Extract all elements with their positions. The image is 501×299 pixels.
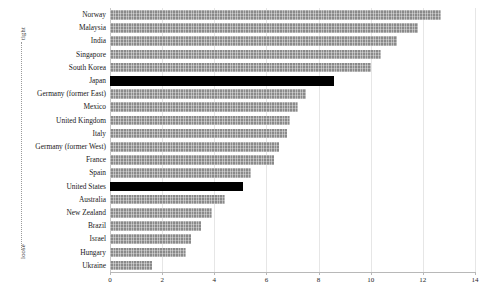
x-tick-label-4: 4 xyxy=(202,276,226,284)
x-tick-label-0: 0 xyxy=(98,276,122,284)
x-tick-label-10: 10 xyxy=(359,276,383,284)
bar-row: Germany (former West) xyxy=(110,140,475,153)
category-label: France xyxy=(86,156,106,163)
category-label: Australia xyxy=(79,196,106,203)
x-tick-label-2: 2 xyxy=(150,276,174,284)
bar xyxy=(110,168,251,178)
category-label: Singapore xyxy=(76,51,106,58)
bar-rows: NorwayMalaysiaIndiaSingaporeSouth KoreaJ… xyxy=(110,8,475,272)
bar xyxy=(110,155,274,165)
bar-row: India xyxy=(110,35,475,48)
bar-row: Mexico xyxy=(110,101,475,114)
category-label: Israel xyxy=(90,236,106,243)
category-label: Italy xyxy=(92,130,106,137)
bar-row: France xyxy=(110,154,475,167)
category-label: Hungary xyxy=(80,249,106,256)
bar xyxy=(110,36,397,46)
x-tick-label-14: 14 xyxy=(463,276,487,284)
bar xyxy=(110,89,306,99)
category-label: India xyxy=(91,38,106,45)
x-tick-8 xyxy=(319,272,320,275)
bar-row: New Zealand xyxy=(110,206,475,219)
bar xyxy=(110,234,191,244)
category-label: United Kingdom xyxy=(56,117,106,124)
bar-row: United Kingdom xyxy=(110,114,475,127)
x-tick-12 xyxy=(423,272,424,275)
bar xyxy=(110,102,298,112)
bar-row: Spain xyxy=(110,167,475,180)
annotation-axis-line xyxy=(21,42,22,250)
tightness-looseness-axis: tight loose xyxy=(14,22,30,270)
annotation-label-tight: tight xyxy=(19,18,26,50)
category-label: Spain xyxy=(89,170,106,177)
category-label: Germany (former West) xyxy=(35,143,106,150)
bar-row: Japan xyxy=(110,74,475,87)
gridline-14 xyxy=(475,8,476,272)
category-label: South Korea xyxy=(69,64,106,71)
x-tick-label-6: 6 xyxy=(254,276,278,284)
bar-row: Italy xyxy=(110,127,475,140)
x-tick-10 xyxy=(371,272,372,275)
category-label: Brazil xyxy=(88,222,106,229)
category-label: New Zealand xyxy=(66,209,106,216)
x-tick-label-8: 8 xyxy=(307,276,331,284)
bar xyxy=(110,208,212,218)
bar-highlighted xyxy=(110,76,334,86)
bar xyxy=(110,10,441,20)
x-tick-2 xyxy=(162,272,163,275)
x-tick-14 xyxy=(475,272,476,275)
bar-row: Singapore xyxy=(110,48,475,61)
bar xyxy=(110,248,186,258)
chart-canvas: tight loose NorwayMalaysiaIndiaSingapore… xyxy=(0,0,501,299)
category-label: Germany (former East) xyxy=(37,90,106,97)
bar xyxy=(110,261,152,271)
x-tick-6 xyxy=(266,272,267,275)
bar-row: Ukraine xyxy=(110,259,475,272)
category-label: United States xyxy=(66,183,106,190)
bar xyxy=(110,195,225,205)
bar-row: South Korea xyxy=(110,61,475,74)
category-label: Japan xyxy=(89,77,106,84)
x-tick-0 xyxy=(110,272,111,275)
bar-row: Malaysia xyxy=(110,22,475,35)
bar xyxy=(110,63,371,73)
plot-area: NorwayMalaysiaIndiaSingaporeSouth KoreaJ… xyxy=(110,8,475,272)
bar xyxy=(110,129,287,139)
bar xyxy=(110,23,418,33)
bar-row: Germany (former East) xyxy=(110,88,475,101)
bar xyxy=(110,116,290,126)
x-tick-label-12: 12 xyxy=(411,276,435,284)
bar-row: Israel xyxy=(110,233,475,246)
bar xyxy=(110,142,279,152)
category-label: Ukraine xyxy=(82,262,106,269)
bar xyxy=(110,50,381,60)
x-axis-line xyxy=(110,272,475,273)
bar-row: Australia xyxy=(110,193,475,206)
bar-highlighted xyxy=(110,182,243,192)
category-label: Mexico xyxy=(83,104,106,111)
category-label: Norway xyxy=(82,11,106,18)
category-label: Malaysia xyxy=(79,24,106,31)
bar-row: Brazil xyxy=(110,220,475,233)
bar-row: Norway xyxy=(110,8,475,21)
x-tick-4 xyxy=(214,272,215,275)
bar-row: Hungary xyxy=(110,246,475,259)
bar-row: United States xyxy=(110,180,475,193)
bar xyxy=(110,221,201,231)
annotation-label-loose: loose xyxy=(19,236,26,268)
